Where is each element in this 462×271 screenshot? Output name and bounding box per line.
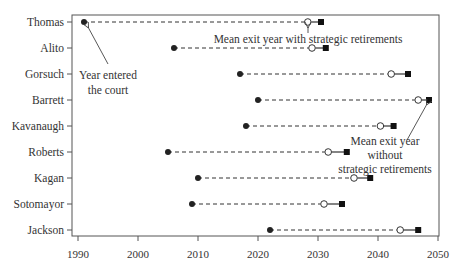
with-strategic-marker <box>397 227 404 234</box>
row-jackson <box>267 227 421 234</box>
chart-canvas: ThomasAlitoGorsuchBarrettKavanaughRobert… <box>0 0 462 271</box>
entered-marker <box>81 19 87 25</box>
y-tick-label: Kavanaugh <box>12 120 65 133</box>
annotation-entered: the court <box>88 84 129 96</box>
without-strategic-marker <box>323 45 329 51</box>
with-strategic-marker <box>309 45 316 52</box>
with-strategic-marker <box>351 175 358 182</box>
row-thomas <box>81 19 324 26</box>
entered-marker <box>267 227 273 233</box>
row-kavanaugh <box>243 123 397 130</box>
y-tick-label: Roberts <box>28 146 64 158</box>
x-tick-label: 2010 <box>187 248 210 260</box>
annotation-with-strategic: Mean exit year with strategic retirement… <box>214 33 403 46</box>
y-tick-label: Barrett <box>32 94 65 106</box>
x-tick-label: 2000 <box>127 248 150 260</box>
entered-marker <box>255 97 261 103</box>
without-strategic-marker <box>415 227 421 233</box>
entered-marker <box>243 123 249 129</box>
with-strategic-marker <box>388 71 395 78</box>
row-barrett <box>255 97 432 104</box>
with-strategic-marker <box>377 123 384 130</box>
y-tick-label: Alito <box>40 42 64 54</box>
entered-marker <box>189 201 195 207</box>
without-strategic-marker <box>426 97 432 103</box>
annotation-without-strategic: strategic retirements <box>338 163 432 176</box>
x-tick-label: 2050 <box>427 248 450 260</box>
annotation-without-strategic: without <box>367 149 403 161</box>
x-axis: 1990200020102020203020402050 <box>67 236 450 260</box>
without-strategic-marker <box>367 175 373 181</box>
annotation-entered: Year entered <box>79 69 137 81</box>
without-strategic-marker <box>344 149 350 155</box>
x-tick-label: 2030 <box>307 248 330 260</box>
row-alito <box>171 45 329 52</box>
entered-marker <box>171 45 177 51</box>
without-strategic-marker <box>391 123 397 129</box>
with-strategic-marker <box>415 97 422 104</box>
x-tick-label: 2040 <box>367 248 390 260</box>
x-tick-label: 2020 <box>247 248 270 260</box>
annotation-without-strategic: Mean exit year <box>351 135 420 148</box>
data-rows <box>81 19 432 234</box>
entered-marker <box>165 149 171 155</box>
without-strategic-marker <box>339 201 345 207</box>
y-tick-label: Thomas <box>27 16 65 28</box>
row-sotomayor <box>189 201 345 208</box>
without-strategic-marker <box>405 71 411 77</box>
y-tick-label: Gorsuch <box>25 68 64 80</box>
dumbbell-chart: ThomasAlitoGorsuchBarrettKavanaughRobert… <box>0 0 462 271</box>
entered-marker <box>195 175 201 181</box>
y-tick-label: Jackson <box>28 224 65 236</box>
entered-marker <box>237 71 243 77</box>
y-axis: ThomasAlitoGorsuchBarrettKavanaughRobert… <box>12 16 72 236</box>
row-roberts <box>165 149 350 156</box>
y-tick-label: Kagan <box>34 172 64 185</box>
row-kagan <box>195 175 373 182</box>
with-strategic-marker <box>321 201 328 208</box>
y-tick-label: Sotomayor <box>14 198 65 211</box>
row-gorsuch <box>237 71 411 78</box>
with-strategic-marker <box>325 149 332 156</box>
without-strategic-marker <box>318 19 324 25</box>
with-strategic-marker <box>305 19 312 26</box>
x-tick-label: 1990 <box>67 248 90 260</box>
